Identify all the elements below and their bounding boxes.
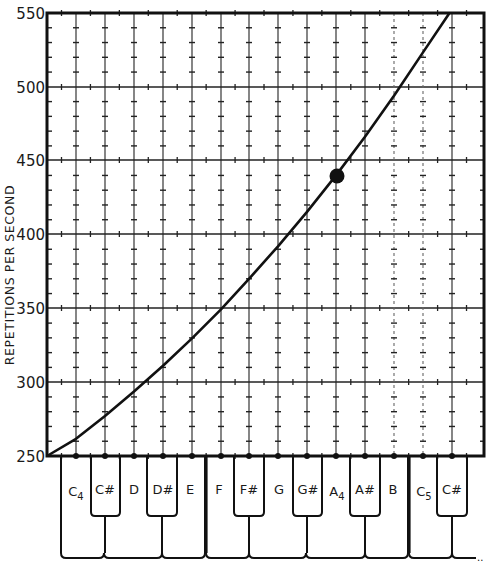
white-key-a4 xyxy=(306,553,365,558)
key-label-e: E xyxy=(186,482,194,497)
key-label-as: A# xyxy=(355,482,375,497)
a440-marker xyxy=(330,169,345,184)
y-tick-labels: 550 500 450 400 350 300 250 xyxy=(16,5,45,466)
ytick-400: 400 xyxy=(16,226,45,244)
key-label-f: F xyxy=(215,482,222,497)
black-key-cs5 xyxy=(437,457,467,553)
black-key-ds xyxy=(147,457,177,553)
horizontal-gridlines xyxy=(47,87,484,382)
white-key-c5 xyxy=(409,457,452,558)
black-key-as xyxy=(350,457,380,553)
ytick-500: 500 xyxy=(16,79,45,97)
key-label-d: D xyxy=(129,482,139,497)
white-key-next xyxy=(452,553,476,558)
key-label-ds: D# xyxy=(153,482,174,497)
white-key-d xyxy=(104,553,162,558)
black-key-fs xyxy=(234,457,264,553)
white-key-g xyxy=(249,553,306,558)
key-label-b: B xyxy=(389,482,398,497)
white-key-c4 xyxy=(61,457,104,558)
ytick-550: 550 xyxy=(16,5,45,23)
key-label-g: G xyxy=(274,482,284,497)
y-axis-label: REPETITIONS PER SECOND xyxy=(2,185,17,365)
white-key-b xyxy=(365,457,408,558)
keyboard-continuation: .. xyxy=(477,552,483,563)
key-labels: C4 C# D D# E F F# G G# A4 A# B C5 C# xyxy=(68,482,462,502)
white-key-f xyxy=(206,457,249,558)
ytick-300: 300 xyxy=(16,374,45,392)
key-label-gs: G# xyxy=(298,482,319,497)
frequency-chart: 550 500 450 400 350 300 250 REPETITIONS … xyxy=(0,0,489,565)
key-label-cs: C# xyxy=(95,482,115,497)
key-label-c4: C4 xyxy=(68,484,83,502)
ytick-350: 350 xyxy=(16,300,45,318)
black-key-gs xyxy=(293,457,322,553)
ytick-450: 450 xyxy=(16,152,45,170)
ytick-250: 250 xyxy=(16,448,45,466)
black-key-cs4 xyxy=(91,457,120,553)
key-label-cs5: C# xyxy=(442,482,462,497)
key-label-a4: A4 xyxy=(329,484,344,502)
white-key-e xyxy=(162,457,205,558)
key-label-c5: C5 xyxy=(416,484,431,502)
piano-keyboard xyxy=(61,457,476,558)
key-label-fs: F# xyxy=(240,482,258,497)
